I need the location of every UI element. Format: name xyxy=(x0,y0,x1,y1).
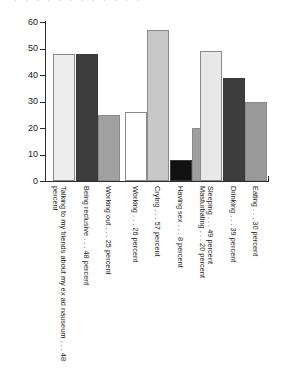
y-axis-tick-mark xyxy=(40,22,45,23)
bar-chart-figure: 0102030405060 Talking to my friends abou… xyxy=(0,0,282,388)
y-axis-tick-label: 50 xyxy=(8,44,38,53)
x-axis-line xyxy=(45,181,269,182)
y-axis-tick-mark xyxy=(40,155,45,156)
y-axis-line xyxy=(45,21,46,182)
y-axis-tick-mark xyxy=(40,49,45,50)
bar xyxy=(170,160,192,181)
bar xyxy=(125,112,147,181)
category-axis-label: Drinking . . . 39 percent xyxy=(229,186,237,262)
y-axis-tick-label: 10 xyxy=(8,150,38,159)
y-axis-tick-label: 60 xyxy=(8,18,38,27)
category-axis-label: Talking to my friends about my ex ad nau… xyxy=(51,186,67,382)
y-axis-tick-mark xyxy=(40,75,45,76)
y-axis-tick-label: 20 xyxy=(8,124,38,133)
category-axis-label: Working . . . 26 percent xyxy=(131,186,139,262)
y-axis-tick-label: 30 xyxy=(8,97,38,106)
category-axis-label: Masturbating . . . 20 percent xyxy=(198,186,206,278)
category-axis-label: Working out . . . 25 percent xyxy=(104,186,112,275)
bar xyxy=(98,115,120,181)
bar xyxy=(245,102,267,182)
category-axis-label: Being reclusive . . . 48 percent xyxy=(82,186,90,285)
category-axis-label: Crying . . . 57 percent xyxy=(153,186,161,257)
y-axis-tick-mark xyxy=(40,181,45,182)
bar xyxy=(53,54,75,181)
bar xyxy=(76,54,98,181)
bar xyxy=(200,51,222,181)
category-axis-label: Having sex . . . 8 percent xyxy=(176,186,184,268)
y-axis-tick-mark xyxy=(40,102,45,103)
category-axis-label: Eating . . . 30 percent xyxy=(251,186,259,256)
bar xyxy=(223,78,245,181)
y-axis-tick-mark xyxy=(40,128,45,129)
category-axis-label: Sleeping . . . 49 percent xyxy=(206,186,214,264)
y-axis-tick-label: 40 xyxy=(8,71,38,80)
bar xyxy=(147,30,169,181)
y-axis-tick-label: 0 xyxy=(8,177,38,186)
x-axis-end-cap xyxy=(268,176,269,182)
